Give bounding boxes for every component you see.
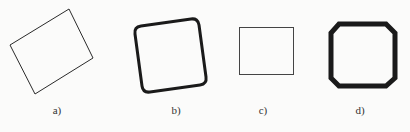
shape-b-rounded-square (135, 19, 206, 92)
shape-d-octagon (331, 24, 395, 86)
shape-c-rectangle (240, 28, 294, 75)
label-c: c) (259, 104, 268, 116)
label-b: b) (171, 104, 180, 116)
label-a: a) (53, 104, 62, 116)
shape-a-rotated-rectangle (10, 9, 93, 94)
label-d: d) (355, 104, 364, 116)
